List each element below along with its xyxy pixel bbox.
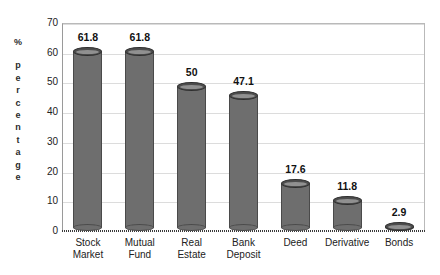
y-axis-title-letter: g xyxy=(8,159,28,171)
y-axis-title: % p e r c e n t a g e xyxy=(8,36,28,183)
y-axis-title-letter: p xyxy=(8,59,28,71)
bar-bottom-cap xyxy=(333,224,362,231)
y-axis-title-letter: e xyxy=(8,171,28,183)
y-axis-title-letter: c xyxy=(8,97,28,109)
bar-bottom-cap xyxy=(281,224,310,231)
y-axis-title-letter: n xyxy=(8,121,28,133)
bar-value-label: 2.9 xyxy=(369,207,429,218)
y-axis-title-letter: r xyxy=(8,84,28,96)
gridline xyxy=(63,24,424,25)
bar-top-cap xyxy=(333,196,362,205)
x-axis-category-label: Bonds xyxy=(367,237,431,249)
bar xyxy=(229,91,258,231)
y-axis-tick-label: 40 xyxy=(32,107,58,117)
bar-value-label: 17.6 xyxy=(265,164,325,175)
y-axis-title-letter: e xyxy=(8,72,28,84)
bar-value-label: 61.8 xyxy=(110,32,170,43)
bar xyxy=(281,179,310,231)
y-axis-tick-label: 60 xyxy=(32,48,58,58)
bar xyxy=(177,82,206,231)
bar-top-cap xyxy=(229,91,258,100)
y-axis-tick-label: 20 xyxy=(32,167,58,177)
bar-body xyxy=(177,87,206,228)
y-axis-percent-symbol: % xyxy=(8,36,28,48)
bar-body xyxy=(125,52,154,228)
y-axis-tick-label: 30 xyxy=(32,137,58,147)
y-axis-tick-label: 50 xyxy=(32,77,58,87)
bar-body xyxy=(281,184,310,228)
y-axis-tick-labels: 706050403020100 xyxy=(30,0,58,275)
y-axis-title-letter: a xyxy=(8,146,28,158)
bar-value-label: 47.1 xyxy=(214,76,274,87)
bar xyxy=(333,196,362,231)
y-axis-tick-label: 0 xyxy=(32,226,58,236)
bar-chart: % p e r c e n t a g e 706050403020100 61… xyxy=(0,0,440,275)
bar-body xyxy=(229,96,258,228)
bar xyxy=(73,47,102,231)
y-axis-tick-label: 70 xyxy=(32,18,58,28)
y-axis-title-letter: t xyxy=(8,134,28,146)
gridline xyxy=(63,54,424,55)
bar-top-cap xyxy=(281,179,310,188)
bar-body xyxy=(73,52,102,228)
bar-bottom-cap xyxy=(177,224,206,231)
y-axis-title-letter: e xyxy=(8,109,28,121)
bar-bottom-cap xyxy=(73,224,102,231)
bar-bottom-cap xyxy=(125,224,154,231)
y-axis-tick-label: 10 xyxy=(32,196,58,206)
bar xyxy=(125,47,154,231)
bar xyxy=(385,222,414,231)
bar-bottom-cap xyxy=(229,224,258,231)
bar-value-label: 11.8 xyxy=(317,181,377,192)
